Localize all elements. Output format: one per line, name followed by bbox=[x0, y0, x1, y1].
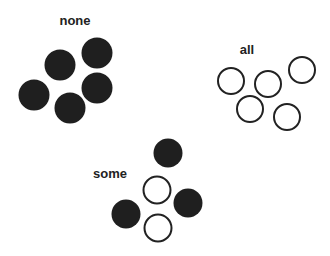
group-label-none: none bbox=[59, 13, 90, 28]
filled-circle bbox=[174, 189, 203, 218]
open-circle bbox=[144, 214, 173, 243]
group-label-all: all bbox=[240, 42, 254, 57]
filled-circle bbox=[82, 38, 113, 69]
filled-circle bbox=[19, 80, 50, 111]
open-circle bbox=[236, 95, 264, 123]
filled-circle bbox=[112, 200, 141, 229]
group-label-some: some bbox=[93, 166, 127, 181]
filled-circle bbox=[82, 73, 113, 104]
filled-circle bbox=[45, 50, 76, 81]
open-circle bbox=[217, 67, 245, 95]
filled-circle bbox=[55, 93, 86, 124]
open-circle bbox=[288, 56, 316, 84]
filled-circle bbox=[154, 139, 183, 168]
open-circle bbox=[254, 70, 282, 98]
open-circle bbox=[273, 103, 301, 131]
open-circle bbox=[143, 176, 172, 205]
